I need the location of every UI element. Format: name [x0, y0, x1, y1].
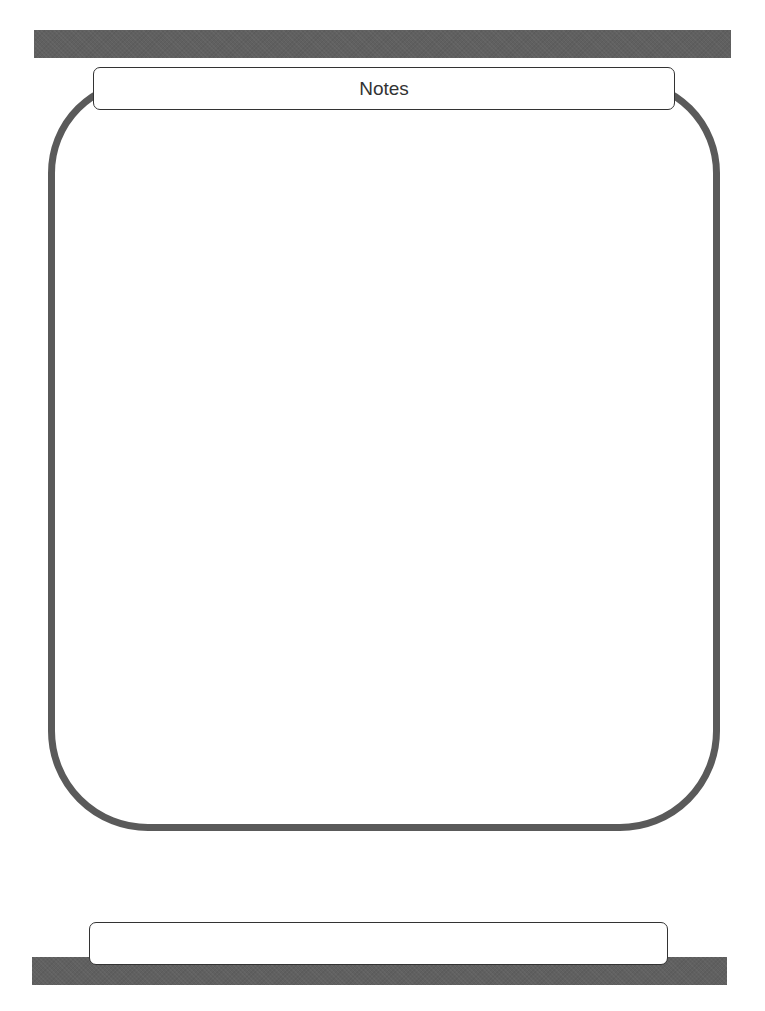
footer-label-box[interactable] — [89, 922, 668, 965]
page-title: Notes — [359, 78, 409, 100]
notes-writing-area[interactable] — [62, 120, 704, 814]
title-label-box: Notes — [93, 67, 675, 110]
top-decorative-bar — [34, 30, 731, 58]
